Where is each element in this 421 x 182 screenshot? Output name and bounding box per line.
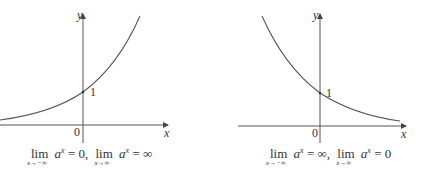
decay-graph: y 1 0 x [238, 8, 407, 143]
decay-caption: limx→−∞ ax = ∞, limx→∞ ax = 0 [270, 146, 391, 162]
growth-graph: y 1 0 x [0, 8, 170, 143]
limit-2: limx→∞ [96, 146, 113, 162]
limit-2: limx→∞ [337, 146, 354, 162]
lim-subscript: x→−∞ [266, 159, 286, 167]
limit-value: = ∞, [304, 146, 330, 161]
lim-subscript: x→∞ [95, 159, 110, 167]
x-axis-label: x [163, 126, 170, 140]
intercept-label: 1 [326, 86, 332, 100]
origin-label: 0 [312, 126, 318, 140]
lim-subscript: x→−∞ [27, 159, 47, 167]
growth-caption: limx→−∞ ax = 0, limx→∞ ax = ∞ [31, 146, 152, 162]
intercept-point [319, 92, 321, 94]
limit-value: = 0 [371, 146, 391, 161]
lim-subscript: x→∞ [336, 159, 351, 167]
limit-1: limx→−∞ [270, 146, 287, 162]
limit-value: = ∞ [129, 146, 152, 161]
limit-value: = 0, [65, 146, 89, 161]
exponential-decay-curve [262, 16, 400, 121]
limit-1: limx→−∞ [31, 146, 48, 162]
x-axis-label: x [400, 127, 407, 141]
intercept-point [82, 91, 84, 93]
y-axis-label: y [76, 8, 83, 22]
origin-label: 0 [74, 125, 80, 139]
exponential-growth-curve [0, 16, 140, 120]
intercept-label: 1 [90, 85, 96, 99]
y-axis-label: y [312, 8, 319, 22]
